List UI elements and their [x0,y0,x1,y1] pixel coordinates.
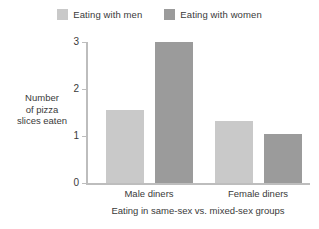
y-tick-mark [82,89,87,90]
legend-entry-eating-with-men: Eating with men [57,9,142,20]
legend-entry-eating-with-women: Eating with women [164,9,261,20]
x-axis-label-male-diners: Male diners [124,188,173,199]
plot-area: 0123 Male dinersFemale diners [86,42,310,183]
y-tick-label: 1 [73,131,79,141]
bar-chart-figure: Eating with men Eating with women Number… [0,0,319,229]
y-tick-mark [82,136,87,137]
bar-female-diners-eating-with-women [264,134,302,183]
y-tick-mark [82,42,87,43]
y-axis-title-line-1: Number [4,92,80,104]
legend-label-eating-with-women: Eating with women [180,9,261,20]
y-tick-label: 2 [73,84,79,94]
x-axis-title: Eating in same-sex vs. mixed-sex groups [86,205,310,216]
y-axis-title-line-3: slices eaten [4,115,80,127]
bar-female-diners-eating-with-men [215,121,253,184]
x-axis-label-female-diners: Female diners [228,188,288,199]
y-tick-label: 3 [73,37,79,47]
x-axis-line [86,183,310,185]
legend-swatch-eating-with-women [164,9,175,20]
legend-swatch-eating-with-men [57,9,68,20]
bar-male-diners-eating-with-women [155,42,193,183]
bar-male-diners-eating-with-men [106,110,144,183]
y-axis-line [86,42,88,183]
chart-legend: Eating with men Eating with women [0,9,319,20]
y-tick-mark [82,183,87,184]
legend-label-eating-with-men: Eating with men [73,9,142,20]
y-axis-title: Number of pizza slices eaten [4,92,80,127]
y-axis-title-line-2: of pizza [4,104,80,116]
y-tick-label: 0 [73,178,79,188]
